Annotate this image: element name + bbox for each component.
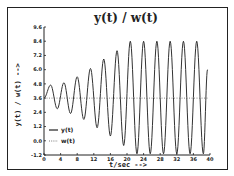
y-tick-label: 3.6 xyxy=(33,95,42,101)
y-tick-label: 0.0 xyxy=(33,138,42,144)
legend-y-label: y(t) xyxy=(61,126,74,134)
y-tick-label: 1.2 xyxy=(33,123,42,129)
y-tick-label: -1.2 xyxy=(31,152,42,158)
y-tick-label: 9.6 xyxy=(33,24,42,30)
x-tick-label: 28 xyxy=(157,156,164,162)
x-tick-label: 36 xyxy=(190,156,197,162)
y-tick-label: 4.8 xyxy=(33,81,42,87)
x-tick-label: 8 xyxy=(75,156,79,162)
y-tick-label: 6.0 xyxy=(33,66,42,72)
x-axis-label: t/sec --> xyxy=(109,161,147,169)
y-axis-label: y(t) / w(t) --> xyxy=(14,63,22,126)
chart-title: y(t) / w(t) xyxy=(93,11,158,25)
x-tick-label: 12 xyxy=(90,156,97,162)
legend: y(t) w(t) xyxy=(49,126,75,144)
x-tick-label: 0 xyxy=(42,156,46,162)
y-tick-label: 2.4 xyxy=(33,109,42,115)
line-chart: y(t) / w(t) -1.20.01.22.43.64.86.07.28.4… xyxy=(0,0,234,176)
x-tick-label: 4 xyxy=(59,156,63,162)
legend-w-label: w(t) xyxy=(61,137,75,144)
x-tick-label: 40 xyxy=(207,156,214,162)
x-tick-label: 32 xyxy=(173,156,180,162)
y-tick-label: 7.2 xyxy=(33,52,42,58)
y-tick-label: 8.4 xyxy=(33,38,42,44)
